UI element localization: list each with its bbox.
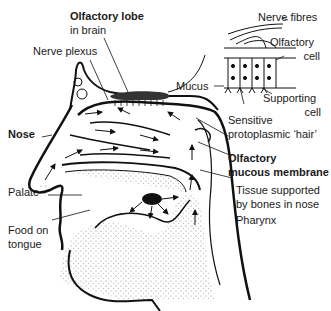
label-tissue-supported: Tissue supported	[236, 184, 320, 197]
label-olfactory-lobe-2: in brain	[70, 24, 106, 37]
label-pharynx: Pharynx	[236, 214, 276, 227]
label-nerve-plexus: Nerve plexus	[33, 45, 97, 58]
label-olfactory-mucous-membrane-2: mucous membrane	[228, 166, 329, 179]
label-sensitive-hair-2: protoplasmic ‘hair’	[228, 128, 317, 141]
label-olfactory-cell-2: cell	[270, 50, 320, 63]
label-mucus: Mucus	[176, 80, 208, 93]
label-food-on-tongue-2: tongue	[8, 238, 42, 251]
label-food-on-tongue: Food on	[8, 224, 48, 237]
label-tissue-supported-2: by bones in nose	[236, 198, 319, 211]
label-supporting-cell: Supporting	[263, 92, 316, 105]
label-nerve-fibres: Nerve fibres	[258, 11, 317, 24]
label-olfactory-mucous-membrane: Olfactory	[228, 152, 276, 165]
label-palate: Palate	[8, 186, 39, 199]
label-olfactory-lobe: Olfactory lobe	[70, 10, 144, 23]
food-blob	[142, 193, 162, 205]
olfactory-diagram: Olfactory lobe in brain Nerve plexus Nos…	[0, 0, 331, 311]
label-nose: Nose	[8, 128, 35, 141]
label-sensitive-hair: Sensitive	[228, 114, 273, 127]
label-olfactory-cell: Olfactory	[270, 36, 314, 49]
